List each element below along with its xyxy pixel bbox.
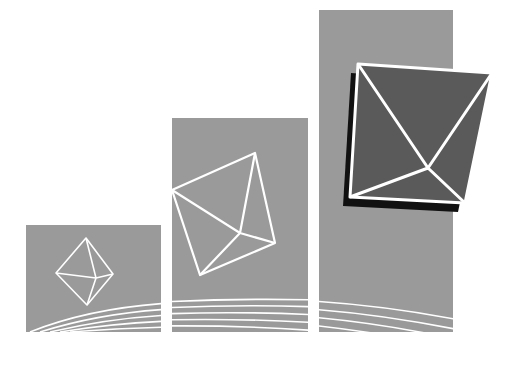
illustration bbox=[0, 0, 517, 369]
panel-medium bbox=[160, 118, 320, 332]
octahedron-large-icon bbox=[343, 64, 492, 212]
panel-small bbox=[26, 225, 170, 332]
